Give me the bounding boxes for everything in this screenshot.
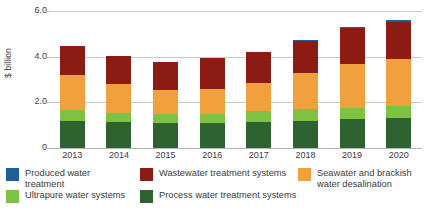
- bar-segment: [153, 90, 178, 114]
- legend-item[interactable]: Ultrapure water systems: [6, 190, 131, 203]
- plot-area: $ billion 02.04.06.0 2013201420152016201…: [0, 0, 428, 160]
- bar-segment: [200, 89, 225, 114]
- stacked-bar-chart: $ billion 02.04.06.0 2013201420152016201…: [0, 0, 428, 216]
- x-tick-label: 2017: [246, 150, 271, 160]
- bar-column: [386, 20, 411, 148]
- bar-segment: [246, 111, 271, 121]
- bar-segment: [386, 59, 411, 106]
- legend-swatch-icon: [140, 168, 153, 181]
- bar-segment: [386, 118, 411, 148]
- x-tick-label: 2019: [340, 150, 365, 160]
- bar-column: [153, 62, 178, 148]
- bar-column: [293, 40, 318, 148]
- bar-segment: [386, 106, 411, 119]
- y-tick-label: 0: [13, 143, 47, 152]
- bar-segment: [293, 41, 318, 73]
- legend-item[interactable]: Produced water treatment: [6, 168, 131, 189]
- bar-segment: [106, 56, 131, 85]
- legend-label: Produced water treatment: [25, 168, 131, 189]
- bar-segment: [340, 28, 365, 63]
- bar-segment: [60, 121, 85, 148]
- bar-segment: [60, 46, 85, 75]
- x-tick-label: 2020: [386, 150, 411, 160]
- bar-segment: [106, 122, 131, 148]
- legend-item[interactable]: Seawater and brackish water desalination: [298, 168, 426, 189]
- chart-legend: Produced water treatmentWastewater treat…: [0, 166, 428, 216]
- bar-segment: [200, 114, 225, 123]
- bar-segment: [293, 73, 318, 110]
- bar-segment: [293, 109, 318, 120]
- bar-column: [246, 52, 271, 148]
- bar-segment: [293, 121, 318, 148]
- bar-segment: [153, 123, 178, 148]
- y-tick-label: 2.0: [13, 97, 47, 106]
- x-tick-label: 2016: [200, 150, 225, 160]
- x-tick-label: 2018: [293, 150, 318, 160]
- legend-label: Ultrapure water systems: [25, 190, 125, 201]
- x-tick-label: 2014: [106, 150, 131, 160]
- bars-container: [49, 0, 422, 148]
- legend-swatch-icon: [140, 190, 153, 203]
- bar-segment: [200, 58, 225, 89]
- bar-column: [60, 46, 85, 148]
- legend-label: Seawater and brackish water desalination: [317, 168, 426, 189]
- y-tick-label: 6.0: [13, 6, 47, 15]
- bar-segment: [246, 83, 271, 112]
- bar-segment: [153, 114, 178, 123]
- y-tick-label: 4.0: [13, 52, 47, 61]
- bar-segment: [106, 84, 131, 113]
- bar-segment: [246, 52, 271, 83]
- legend-label: Process water treatment systems: [159, 190, 296, 201]
- legend-swatch-icon: [6, 190, 19, 203]
- bar-column: [106, 56, 131, 148]
- bar-column: [200, 58, 225, 148]
- x-tick-label: 2015: [153, 150, 178, 160]
- legend-swatch-icon: [6, 168, 19, 181]
- y-axis-ticks: 02.04.06.0: [0, 0, 47, 160]
- bar-column: [340, 27, 365, 148]
- legend-swatch-icon: [298, 168, 311, 181]
- bar-segment: [106, 113, 131, 122]
- bar-segment: [386, 22, 411, 59]
- x-tick-label: 2013: [60, 150, 85, 160]
- bar-segment: [340, 108, 365, 119]
- bar-segment: [246, 122, 271, 148]
- bar-segment: [60, 110, 85, 120]
- x-axis-labels: 20132014201520162017201820192020: [49, 150, 422, 164]
- bar-segment: [153, 62, 178, 89]
- legend-item[interactable]: Wastewater treatment systems: [140, 168, 290, 181]
- x-axis-line: [49, 148, 422, 149]
- bar-segment: [60, 75, 85, 110]
- legend-label: Wastewater treatment systems: [159, 168, 286, 179]
- bar-segment: [340, 64, 365, 109]
- bar-segment: [200, 123, 225, 148]
- legend-item[interactable]: Process water treatment systems: [140, 190, 310, 203]
- bar-segment: [340, 119, 365, 148]
